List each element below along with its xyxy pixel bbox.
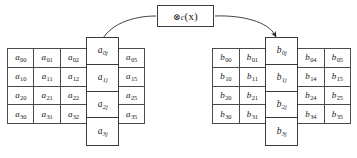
cell-a-1-5: a15 [119, 68, 145, 87]
cell-a-3-2: a32 [61, 105, 87, 124]
matrix-b-highlighted-column[interactable]: b0j b1j b2j b3j [265, 37, 298, 146]
cell-b-3-1: b31 [240, 105, 267, 124]
tensor-icon: ⊗ [173, 12, 181, 22]
cell-a-2-j: a2j [87, 92, 118, 119]
cell-b-1-5: b15 [325, 68, 352, 87]
cell-b-3-4: b34 [298, 105, 325, 124]
cell-a-0-2: a02 [61, 49, 87, 68]
cell-b-0-1: b01 [240, 49, 267, 68]
cell-a-3-1: a31 [34, 105, 60, 124]
cell-a-3-j: a3j [87, 118, 118, 145]
cell-a-3-5: a35 [119, 105, 145, 124]
matrix-a-left-block: a00 a01 a02 a10 a11 a12 a20 a21 a22 a30 … [7, 48, 87, 124]
cell-a-1-1: a11 [34, 68, 60, 87]
cell-a-0-0: a00 [8, 49, 34, 68]
cell-b-2-1: b21 [240, 87, 267, 106]
cell-a-0-j: a0j [87, 38, 118, 65]
matrix-a-highlighted-column[interactable]: a0j a1j a2j a3j [86, 37, 119, 146]
cell-b-2-4: b24 [298, 87, 325, 106]
cell-b-1-0: b10 [213, 68, 240, 87]
cell-a-2-1: a21 [34, 87, 60, 106]
diagram-canvas: ⊗c(x) a00 a01 a02 a10 a11 a12 a20 a21 a2… [0, 0, 357, 158]
cell-a-3-0: a30 [8, 105, 34, 124]
matrix-b-left-block: b00 b01 b10 b11 b20 b21 b30 b31 [212, 48, 266, 124]
cell-b-2-0: b20 [213, 87, 240, 106]
matrix-a-right-block: a05 a15 a25 a35 [118, 48, 145, 124]
cell-b-1-j: b1j [266, 65, 297, 92]
cell-a-1-0: a10 [8, 68, 34, 87]
cell-a-0-5: a05 [119, 49, 145, 68]
cell-b-3-0: b30 [213, 105, 240, 124]
cell-b-1-4: b14 [298, 68, 325, 87]
cell-a-1-j: a1j [87, 65, 118, 92]
cell-b-2-5: b25 [325, 87, 352, 106]
cell-b-3-j: b3j [266, 118, 297, 145]
cell-b-2-j: b2j [266, 92, 297, 119]
cell-b-0-j: b0j [266, 38, 297, 65]
operator-box[interactable]: ⊗c(x) [157, 5, 214, 27]
operator-argument: (x) [185, 10, 198, 22]
cell-b-1-1: b11 [240, 68, 267, 87]
cell-a-2-5: a25 [119, 87, 145, 106]
cell-b-0-4: b04 [298, 49, 325, 68]
cell-a-2-0: a20 [8, 87, 34, 106]
cell-b-0-5: b05 [325, 49, 352, 68]
cell-a-0-1: a01 [34, 49, 60, 68]
cell-a-1-2: a12 [61, 68, 87, 87]
matrix-b-right-block: b04 b05 b14 b15 b24 b25 b34 b35 [297, 48, 351, 124]
operator-label: ⊗c(x) [173, 11, 198, 22]
cell-b-0-0: b00 [213, 49, 240, 68]
output-arrow-path [215, 16, 275, 35]
cell-b-3-5: b35 [325, 105, 352, 124]
cell-a-2-2: a22 [61, 87, 87, 106]
